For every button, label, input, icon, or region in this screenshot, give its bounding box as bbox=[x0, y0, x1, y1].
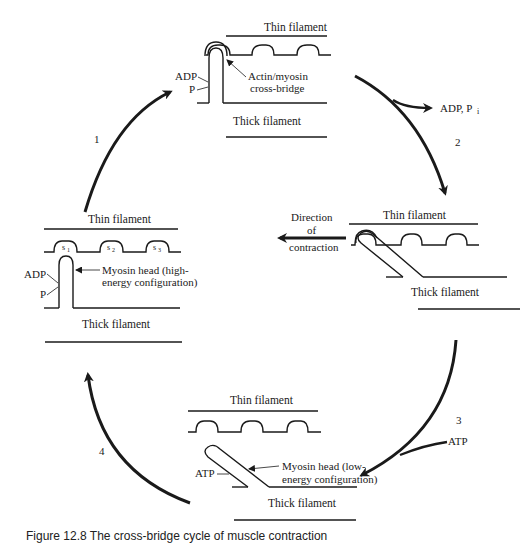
thick-filament-label: Thick filament bbox=[233, 115, 302, 127]
binding-site-s1: s bbox=[62, 243, 65, 252]
thin-filament-label: Thin filament bbox=[383, 209, 447, 221]
thin-filament-label: Thin filament bbox=[264, 21, 328, 33]
low-energy-callout-1: Myosin head (low- bbox=[282, 460, 366, 473]
myosin-head bbox=[59, 256, 73, 308]
direction-label-3: contraction bbox=[289, 241, 339, 253]
thick-filament-label: Thick filament bbox=[268, 497, 337, 509]
phosphate-label: P bbox=[189, 83, 195, 95]
binding-site-s3: s bbox=[153, 243, 156, 252]
release-pi-subscript: i bbox=[477, 107, 480, 116]
adp-label: ADP bbox=[24, 268, 46, 280]
step-1-label: 1 bbox=[94, 133, 100, 145]
release-adp-pi-label: ADP, P bbox=[440, 102, 472, 114]
cross-bridge-pointer bbox=[227, 60, 246, 77]
step-2-arrow bbox=[355, 76, 445, 193]
myosin-head bbox=[358, 231, 423, 277]
actin-strand bbox=[188, 421, 321, 432]
myosin-head bbox=[205, 445, 269, 487]
step-1-arrow bbox=[85, 92, 170, 212]
actin-strand bbox=[351, 234, 479, 245]
thick-filament-label: Thick filament bbox=[82, 318, 151, 330]
phosphate-label: P bbox=[40, 288, 46, 300]
thin-filament-label: Thin filament bbox=[88, 213, 152, 225]
thin-filament-label: Thin filament bbox=[230, 394, 294, 406]
panel-right-power-stroke: Thin filament Thick filament Direction o… bbox=[280, 209, 520, 309]
binding-site-s2: s bbox=[107, 243, 110, 252]
panel-bottom-detached-state: Thin filament Thick filament ATP Myosin … bbox=[188, 394, 378, 520]
atp-input-label: ATP bbox=[448, 435, 468, 447]
direction-label-2: of bbox=[307, 224, 317, 236]
svg-text:2: 2 bbox=[112, 247, 115, 253]
thick-filament-label: Thick filament bbox=[411, 286, 480, 298]
figure-caption: Figure 12.8 The cross-bridge cycle of mu… bbox=[26, 529, 327, 543]
panel-left-high-energy-state: Thin filament s 1 s 2 s 3 Thick filament… bbox=[24, 213, 198, 342]
step-3-arrow bbox=[362, 340, 456, 475]
panel-top-attached-state: Thin filament Thick filament ADP P Actin… bbox=[175, 21, 331, 137]
high-energy-callout-2: energy configuration) bbox=[102, 276, 198, 289]
adp-label: ADP bbox=[175, 70, 197, 82]
step-3-label: 3 bbox=[456, 414, 462, 426]
step-4-label: 4 bbox=[99, 445, 105, 457]
myosin-head bbox=[209, 48, 223, 103]
atp-bound-label: ATP bbox=[195, 467, 215, 479]
svg-text:3: 3 bbox=[158, 247, 161, 253]
step-4-arrow bbox=[88, 375, 190, 503]
cross-bridge-callout-1: Actin/myosin bbox=[248, 70, 308, 82]
svg-text:1: 1 bbox=[67, 247, 70, 253]
step-2-label: 2 bbox=[455, 136, 461, 148]
direction-label-1: Direction bbox=[291, 211, 333, 223]
cross-bridge-callout-2: cross-bridge bbox=[250, 82, 304, 94]
myosin-head-pointer bbox=[249, 466, 279, 469]
